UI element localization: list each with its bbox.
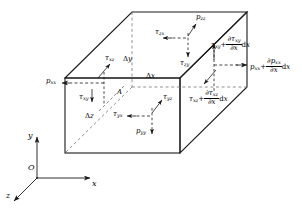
tau-xz-num-sub: xz xyxy=(213,91,218,97)
p-xx-plus-fraction: ∂pxx∂x xyxy=(266,58,282,75)
label-tau-xz-plus-gradient: τxz+∂τxz∂xdx xyxy=(189,90,228,107)
label-p-yy: pyy xyxy=(136,128,146,135)
tau-xy-plus-fraction: ∂τxy∂x xyxy=(226,36,241,53)
diagram-svg xyxy=(0,0,302,210)
label-tau-xy-plus-gradient: τxy+∂τxy∂xdx xyxy=(211,36,250,53)
label-p-xx: pxx xyxy=(46,78,56,85)
arrow-tau-yz xyxy=(152,100,162,113)
axis-z-label: z xyxy=(6,192,10,200)
p-yy-sub: yy xyxy=(140,129,146,135)
label-p-zz: pzz xyxy=(196,14,206,21)
tau-xz-plus-denominator: ∂x xyxy=(204,99,219,107)
hidden-edge-diagonal xyxy=(65,87,132,153)
tau-yz-sub: yz xyxy=(167,95,172,101)
tau-xy-plus-dvar: x xyxy=(246,41,250,49)
tau-yx-sub: yx xyxy=(117,112,123,118)
label-tau-yx: τyx xyxy=(113,111,123,118)
tau-xz-sub: xz xyxy=(109,56,114,62)
label-tau-yz: τyz xyxy=(163,94,172,101)
label-tau-xy: τxy xyxy=(79,94,89,101)
label-tau-xz: τxz xyxy=(105,55,114,62)
tau-zy-sub: zy xyxy=(184,61,189,67)
delta-var-y: y xyxy=(128,55,132,63)
tau-xy-num-sub: xy xyxy=(235,37,241,43)
delta-var-z: z xyxy=(90,112,94,120)
arrow-tau-xz-plus xyxy=(204,70,216,84)
delta-var-x: x xyxy=(151,72,155,80)
p-xx-sub: xx xyxy=(50,79,56,85)
axis-x-label: x xyxy=(92,180,97,188)
label-tau-zy: τzy xyxy=(180,60,189,67)
p-xx-plus-dvar: x xyxy=(286,63,290,71)
tau-xy-den-var: x xyxy=(234,44,238,52)
axis-z xyxy=(14,178,37,201)
label-p-xx-plus-gradient: pxx+∂pxx∂xdx xyxy=(250,58,290,75)
arrow-tau-xz xyxy=(98,64,110,78)
p-xx-plus-denominator: ∂x xyxy=(266,67,282,75)
axis-origin-label: O xyxy=(28,164,35,172)
tau-xz-plus-fraction: ∂τxz∂x xyxy=(204,90,219,107)
p-xx-num-sub: xx xyxy=(275,59,281,65)
figure-canvas: O y x z Δy Δx Δz A pxx τxz τxy pzz τzx τ… xyxy=(0,0,302,210)
axis-origin-dot xyxy=(36,177,38,179)
dimension-delta-y: Δy xyxy=(123,56,132,63)
arrow-p-zz xyxy=(188,24,196,36)
tau-xy-plus-denominator: ∂x xyxy=(226,45,241,53)
top-face-stress-arrows xyxy=(163,24,196,57)
point-a-label: A xyxy=(117,89,122,96)
p-xx-den-var: x xyxy=(274,66,278,74)
tau-xz-plus-dvar: x xyxy=(224,95,228,103)
dimension-delta-z: Δz xyxy=(85,113,94,120)
tau-xz-den-var: x xyxy=(212,98,216,106)
p-zz-sub: zz xyxy=(200,15,205,21)
tau-zx-sub: zx xyxy=(159,30,164,36)
axis-y-label: y xyxy=(28,132,33,140)
coordinate-axes xyxy=(14,137,90,201)
tau-xy-sub: xy xyxy=(83,95,89,101)
dimension-delta-x: Δx xyxy=(146,73,155,80)
label-tau-zx: τzx xyxy=(155,29,164,36)
